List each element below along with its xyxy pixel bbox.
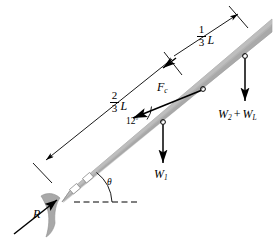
weight-w2-symbol: W xyxy=(218,107,228,121)
two-thirds-fraction: 2 3 xyxy=(110,90,119,115)
free-body-diagram-figure: 1 3 L 2 3 L Fc 12° θ R W1 W2+WL xyxy=(0,0,278,242)
dimension-label-two-thirds-L: 2 3 L xyxy=(110,90,127,115)
two-thirds-unit: L xyxy=(121,99,128,115)
muscle-force-subscript: c xyxy=(164,86,167,95)
degree-symbol: ° xyxy=(136,116,139,123)
weight-w1-label: W1 xyxy=(154,168,168,181)
muscle-force-label: Fc xyxy=(157,81,168,94)
weight-w2-wl-arrow xyxy=(243,54,248,101)
force-angle-label: 12° xyxy=(126,116,138,126)
force-angle-value: 12 xyxy=(126,116,136,126)
weight-w1-symbol: W xyxy=(154,167,164,181)
support-hook-icon xyxy=(41,194,60,237)
two-thirds-numerator: 2 xyxy=(111,90,119,101)
force-angle-arc xyxy=(147,107,152,120)
two-thirds-denominator: 3 xyxy=(111,103,119,114)
one-third-numerator: 1 xyxy=(198,24,206,35)
incline-angle-label: θ xyxy=(107,178,112,188)
dimension-label-one-third-L: 1 3 L xyxy=(197,24,214,49)
one-third-unit: L xyxy=(208,33,215,49)
weight-w1-subscript: 1 xyxy=(164,173,168,182)
weight-w2-wl-label: W2+WL xyxy=(218,108,257,121)
weight-wl-subscript: L xyxy=(253,113,257,122)
one-third-denominator: 3 xyxy=(198,37,206,48)
reaction-force-label: R xyxy=(33,208,40,220)
weight-wl-symbol: W xyxy=(243,107,253,121)
one-third-fraction: 1 3 xyxy=(197,24,206,49)
plus-operator: + xyxy=(232,107,243,121)
weight-w1-arrow xyxy=(161,120,166,163)
